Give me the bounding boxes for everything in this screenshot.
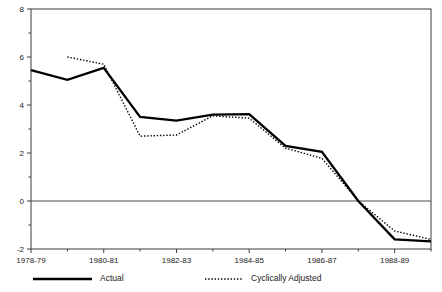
x-tick-label: 1988-89 [380,256,410,265]
series-line-2 [67,57,431,239]
x-tick-label: 1980-81 [89,256,119,265]
y-axis-ticks [27,9,31,249]
chart-legend: ActualCyclically Adjusted [33,273,322,283]
x-tick-label: 1986-87 [307,256,337,265]
chart-container: 86420-2 1978-791980-811982-831984-851986… [0,0,442,292]
x-axis-tick-labels: 1978-791980-811982-831984-851986-871988-… [16,256,410,265]
x-tick-label: 1984-85 [235,256,265,265]
y-tick-label: 6 [20,53,25,62]
y-tick-label: 2 [20,149,25,158]
line-chart: 86420-2 1978-791980-811982-831984-851986… [0,0,442,292]
y-tick-label: 8 [20,5,25,14]
data-series-group [31,57,431,241]
series-line-1 [31,68,431,242]
y-axis-tick-labels: 86420-2 [17,5,25,254]
x-axis-ticks [31,249,431,253]
y-tick-label: -2 [17,245,25,254]
y-tick-label: 4 [20,101,25,110]
legend-label-2: Cyclically Adjusted [251,273,322,283]
x-tick-label: 1978-79 [16,256,46,265]
legend-label-1: Actual [100,273,124,283]
x-tick-label: 1982-83 [162,256,192,265]
y-tick-label: 0 [20,197,25,206]
